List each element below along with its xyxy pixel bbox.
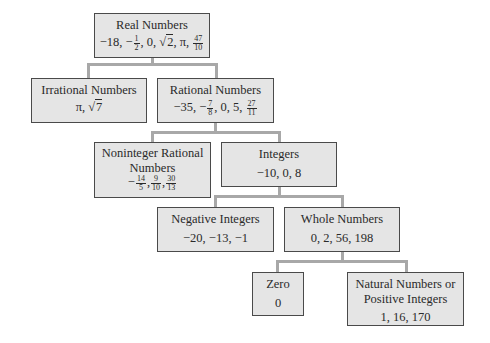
node-title: Noninteger Rational bbox=[95, 146, 210, 161]
node-negative-integers: Negative Integers −20, −13, −1 bbox=[157, 207, 274, 252]
node-title: Rational Numbers bbox=[158, 83, 273, 98]
node-examples: −35, −78, 0, 5, 2711 bbox=[158, 100, 273, 117]
node-whole-numbers: Whole Numbers 0, 2, 56, 198 bbox=[284, 207, 400, 252]
node-title: Integers bbox=[222, 147, 336, 162]
node-title: Whole Numbers bbox=[285, 212, 399, 227]
connector-rational-branch bbox=[151, 131, 281, 134]
connector-to-irrational bbox=[87, 63, 90, 79]
connector-real-branch bbox=[87, 63, 218, 66]
node-examples: −20, −13, −1 bbox=[158, 231, 273, 246]
node-title-line2: Numbers bbox=[95, 161, 210, 176]
node-natural-numbers: Natural Numbers or Positive Integers 1, … bbox=[347, 272, 464, 326]
node-title-line2: Positive Integers bbox=[348, 292, 463, 307]
sqrt-symbol: √7 bbox=[88, 100, 102, 115]
node-integers: Integers −10, 0, 8 bbox=[221, 142, 337, 187]
node-title: Irrational Numbers bbox=[32, 83, 146, 98]
sqrt-symbol: √2 bbox=[159, 35, 173, 50]
node-noninteger-rational-numbers: Noninteger Rational Numbers −145,910,301… bbox=[94, 142, 211, 198]
node-zero: Zero 0 bbox=[252, 272, 304, 316]
connector-integers-branch bbox=[214, 195, 344, 198]
connector-to-rational bbox=[215, 63, 218, 79]
node-title: Zero bbox=[253, 277, 303, 292]
node-examples: 0, 2, 56, 198 bbox=[285, 231, 399, 246]
node-examples: 0 bbox=[253, 296, 303, 311]
node-rational-numbers: Rational Numbers −35, −78, 0, 5, 2711 bbox=[157, 78, 274, 123]
node-title: Real Numbers bbox=[95, 18, 209, 33]
node-real-numbers: Real Numbers −18, −12, 0, √2, π, 4710 bbox=[94, 13, 210, 58]
node-examples: −145,910,3013 bbox=[95, 175, 210, 192]
node-examples: 1, 16, 170 bbox=[348, 310, 463, 325]
node-examples: −18, −12, 0, √2, π, 4710 bbox=[95, 35, 209, 52]
node-examples: −10, 0, 8 bbox=[222, 166, 336, 181]
node-irrational-numbers: Irrational Numbers π, √7 bbox=[31, 78, 147, 123]
node-title: Natural Numbers or bbox=[348, 277, 463, 292]
node-examples: π, √7 bbox=[32, 100, 146, 115]
node-title: Negative Integers bbox=[158, 212, 273, 227]
connector-whole-branch bbox=[276, 260, 408, 263]
